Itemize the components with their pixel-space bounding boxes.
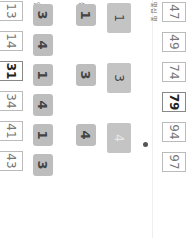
result-43: 43 [0, 151, 23, 171]
ones-card-3-1: 1 [33, 64, 53, 86]
step-marker-icon [143, 142, 148, 147]
ones-card-1-4: 4 [33, 34, 53, 56]
bottom-result-74: 74 [162, 62, 186, 82]
big-card-4: 4 [107, 123, 131, 153]
divider [152, 0, 153, 238]
bottom-result-47: 47 [162, 2, 186, 22]
big-card-1: 1 [107, 3, 131, 33]
big-card-3: 3 [107, 63, 131, 93]
result-34: 34 [0, 91, 23, 111]
tens-card-4: 4 [76, 124, 96, 146]
result-14: 14 [0, 31, 23, 51]
ones-card-3-4: 4 [33, 94, 53, 116]
ones-card-4-3: 3 [33, 154, 53, 176]
worksheet: 몇십 몇 일 십 13 14 31 34 41 43 3 4 1 4 1 3 1… [0, 0, 191, 238]
result-31: 31 [0, 61, 23, 81]
bottom-result-97: 97 [162, 152, 186, 172]
result-41: 41 [0, 121, 23, 141]
bottom-result-49: 49 [162, 32, 186, 52]
tens-card-1: 1 [76, 4, 96, 26]
tens-card-3: 3 [76, 64, 96, 86]
bottom-result-79: 79 [162, 92, 186, 112]
ones-card-1-3: 3 [33, 4, 53, 26]
bottom-result-94: 94 [162, 122, 186, 142]
ones-card-4-1: 1 [33, 124, 53, 146]
bottom-header-label: 몇십 몇 [150, 2, 159, 22]
result-13: 13 [0, 1, 23, 21]
